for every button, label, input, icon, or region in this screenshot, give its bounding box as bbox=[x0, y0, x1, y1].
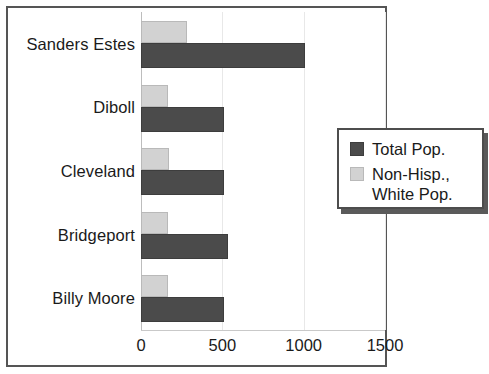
bar-total-pop bbox=[141, 170, 224, 195]
bar-total-pop bbox=[141, 43, 305, 68]
x-tick-label: 1500 bbox=[367, 336, 404, 355]
legend-label-non-hisp-white-pop: Non-Hisp., White Pop. bbox=[372, 164, 453, 204]
chart-screenshot: Sanders EstesDibollClevelandBridgeportBi… bbox=[0, 0, 489, 374]
x-tick-label: 0 bbox=[136, 336, 145, 355]
legend-swatch-total-pop bbox=[350, 142, 364, 156]
category-label: Cleveland bbox=[61, 161, 135, 180]
x-axis-baseline bbox=[141, 330, 385, 331]
bar-non-hisp-white-pop bbox=[141, 21, 187, 43]
legend-item-non-hisp-white-pop: Non-Hisp., White Pop. bbox=[350, 164, 453, 204]
bar-total-pop bbox=[141, 234, 228, 259]
bar-total-pop bbox=[141, 297, 224, 322]
bar-total-pop bbox=[141, 107, 224, 132]
bar-non-hisp-white-pop bbox=[141, 212, 168, 234]
legend-swatch-non-hisp-white-pop bbox=[350, 167, 364, 181]
bar-non-hisp-white-pop bbox=[141, 275, 168, 297]
x-tick-label: 1000 bbox=[285, 336, 322, 355]
bar-non-hisp-white-pop bbox=[141, 85, 168, 107]
x-axis-tick-labels: 050010001500 bbox=[141, 336, 385, 360]
bar-non-hisp-white-pop bbox=[141, 148, 169, 170]
x-tick-label: 500 bbox=[209, 336, 237, 355]
category-label: Bridgeport bbox=[58, 225, 135, 244]
category-label: Diboll bbox=[93, 98, 135, 117]
legend-label-total-pop: Total Pop. bbox=[372, 139, 445, 159]
category-label: Sanders Estes bbox=[26, 34, 135, 53]
bar-group: Sanders Estes bbox=[141, 12, 385, 76]
category-label: Billy Moore bbox=[52, 289, 135, 308]
legend-item-total-pop: Total Pop. bbox=[350, 139, 445, 159]
bar-group: Billy Moore bbox=[141, 266, 385, 330]
chart-legend: Total Pop. Non-Hisp., White Pop. bbox=[337, 128, 484, 209]
